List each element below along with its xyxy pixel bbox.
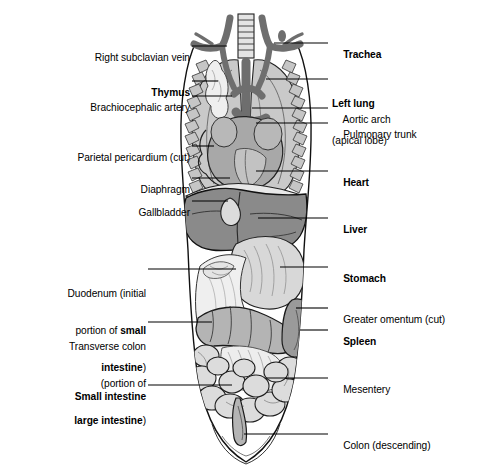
label-line: large intestine) — [0, 415, 146, 427]
label-text: Mesentery — [343, 384, 390, 395]
label-text-bold: large intestine — [74, 415, 142, 426]
label-text: Right subclavian vein — [95, 52, 190, 63]
label-mesentery: Mesentery — [332, 372, 490, 409]
label-text: Stomach — [343, 273, 386, 284]
label-line: Duodenum (initial — [0, 288, 146, 300]
label-heart: Heart — [332, 165, 490, 202]
label-text: Heart — [343, 177, 369, 188]
label-liver: Liver — [332, 212, 490, 249]
label-text: Duodenum (initial — [68, 288, 146, 299]
label-text: Small intestine — [75, 391, 146, 402]
label-text: Colon (descending) — [343, 440, 430, 451]
label-text: Parietal pericardium (cut) — [78, 152, 191, 163]
label-text: Brachiocephalic artery — [90, 102, 190, 113]
label-right-subclavian-vein: Right subclavian vein — [0, 40, 190, 77]
label-trachea: Trachea — [332, 37, 490, 74]
label-colon-descending: Colon (descending) — [332, 428, 490, 465]
label-line: Transverse colon — [0, 341, 146, 353]
label-gallbladder: Gallbladder — [0, 195, 190, 232]
figure-canvas: Right subclavian vein Thymus Brachioceph… — [0, 0, 492, 473]
label-text: ) — [143, 415, 146, 426]
label-text: Diaphragm — [141, 184, 190, 195]
label-pulmonary-trunk: Pulmonary trunk — [332, 117, 490, 154]
label-text: Liver — [343, 224, 367, 235]
label-text: Pulmonary trunk — [343, 129, 416, 140]
label-small-intestine: Small intestine — [0, 379, 146, 416]
label-brachiocephalic-artery: Brachiocephalic artery — [0, 90, 190, 127]
label-text: Trachea — [343, 49, 381, 60]
label-stomach: Stomach — [332, 261, 490, 298]
label-text: Gallbladder — [138, 207, 190, 218]
label-text: Transverse colon — [69, 341, 146, 352]
trachea — [238, 14, 254, 58]
label-text: Spleen — [343, 336, 376, 347]
label-spleen: Spleen — [332, 324, 490, 361]
